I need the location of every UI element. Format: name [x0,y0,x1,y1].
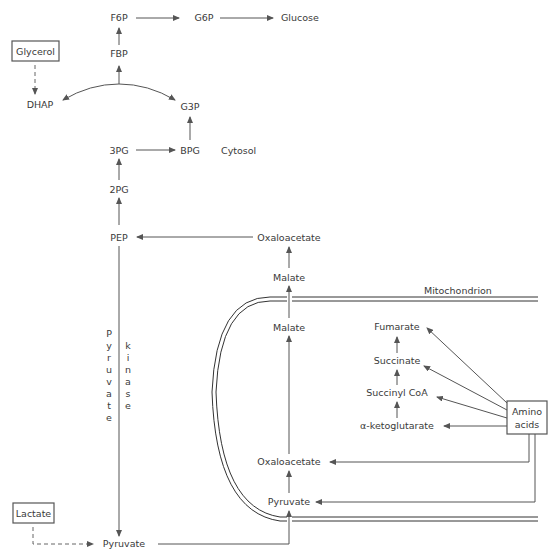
svg-text:a: a [106,388,112,399]
metabolite-bpg: BPG [180,145,200,156]
metabolite-fbp: FBP [110,48,128,59]
svg-text:r: r [107,352,111,363]
arrow-aa-pyruvate [316,434,535,502]
metabolite-oxaloacetate-cytosol: Oxaloacetate [257,232,321,243]
metabolite-succinate: Succinate [374,355,421,366]
metabolite-malate-mito: Malate [273,322,305,333]
metabolite-g3p: G3P [180,101,199,112]
metabolite-pep: PEP [110,232,128,243]
svg-text:u: u [106,364,112,375]
svg-text:y: y [106,340,112,351]
metabolite-pyruvate-mito: Pyruvate [268,496,310,507]
arrow-pyruvate-transport [158,511,289,544]
arrow-aa-succinylcoa [437,397,507,418]
metabolite-2pg: 2PG [109,184,128,195]
arrow-lactate-pyruvate [33,527,93,544]
arrow-to-dhap [63,84,119,100]
svg-text:v: v [106,376,112,387]
arrow-aa-fumarate [427,328,507,403]
arrow-to-g3p [119,84,175,100]
source-amino-acids-line1: Amino [512,406,542,417]
metabolite-glucose: Glucose [281,12,319,23]
svg-text:s: s [126,388,131,399]
metabolite-fumarate: Fumarate [374,321,419,332]
svg-text:i: i [127,352,130,363]
svg-text:e: e [106,412,112,423]
metabolite-f6p: F6P [110,12,128,23]
source-amino-acids-line2: acids [515,419,540,430]
metabolite-oxaloacetate-mito: Oxaloacetate [257,456,321,467]
arrow-aa-succinate [424,366,507,410]
source-glycerol: Glycerol [16,46,55,57]
source-lactate: Lactate [16,508,52,519]
metabolite-alpha-ketoglutarate: α-ketoglutarate [360,420,434,431]
compartment-cytosol: Cytosol [221,145,256,156]
svg-text:n: n [125,364,131,375]
metabolite-succinyl-coa: Succinyl CoA [366,387,428,398]
metabolite-g6p: G6P [194,12,213,23]
svg-text:t: t [107,400,111,411]
metabolite-pyruvate-cytosol: Pyruvate [103,538,145,549]
arrow-aa-oxaloacetate [330,434,529,462]
svg-text:P: P [106,328,112,339]
compartment-mitochondrion: Mitochondrion [424,285,492,296]
metabolite-dhap: DHAP [27,99,54,110]
svg-text:k: k [125,340,131,351]
metabolite-3pg: 3PG [109,145,128,156]
metabolite-malate-cytosol: Malate [273,272,305,283]
svg-text:e: e [125,400,131,411]
svg-text:a: a [125,376,131,387]
gluconeogenesis-diagram: F6P G6P Glucose FBP Glycerol DHAP G3P 3P… [0,0,556,558]
